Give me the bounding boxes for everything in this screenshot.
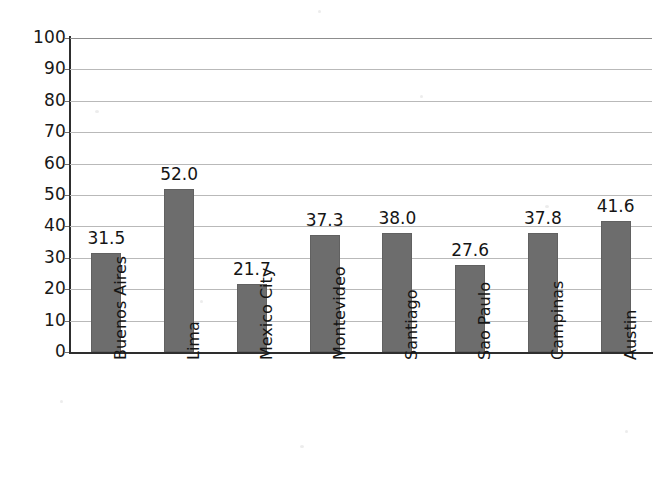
x-axis-category-label-text: Montevideo — [332, 266, 348, 360]
x-axis-category-label-text: Austin — [623, 310, 639, 360]
x-axis-category-label-text: Campinas — [550, 281, 566, 360]
x-axis-category-label: Campinas — [550, 281, 566, 360]
x-axis-category-label-text: Sao Paulo — [477, 282, 493, 360]
x-axis-category-label: Buenos Aires — [113, 256, 129, 360]
x-axis-category-labels: Buenos AiresLimaMexico CityMontevideoSan… — [0, 0, 671, 484]
x-axis-category-label-text: Buenos Aires — [113, 256, 129, 360]
x-axis-category-label-text: Santiago — [404, 289, 420, 360]
x-axis-category-label: Mexico City — [259, 268, 275, 360]
x-axis-category-label: Santiago — [404, 289, 420, 360]
x-axis-category-label: Sao Paulo — [477, 282, 493, 360]
x-axis-category-label: Lima — [186, 321, 202, 360]
x-axis-category-label: Austin — [623, 310, 639, 360]
x-axis-category-label: Montevideo — [332, 266, 348, 360]
bar-chart: 1009080706050403020100 31.552.021.737.33… — [0, 0, 671, 484]
x-axis-category-label-text: Lima — [186, 321, 202, 360]
x-axis-category-label-text: Mexico City — [259, 268, 275, 360]
